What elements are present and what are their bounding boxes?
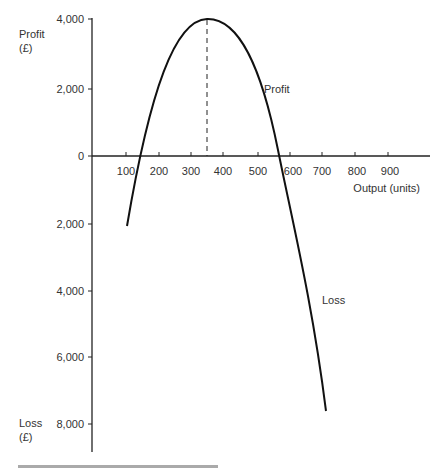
svg-text:8,000: 8,000 [56,418,84,430]
svg-text:2,000: 2,000 [56,83,84,95]
svg-text:700: 700 [313,165,331,177]
svg-text:2,000: 2,000 [56,218,84,230]
y-axis-label-profit: Profit [19,28,45,40]
y-axis-label-loss: Loss [19,417,43,429]
profit-loss-chart: 4,000 2,000 0 2,000 4,000 6,000 8,000 10… [0,0,447,468]
y-axis-label-loss-unit: (£) [19,431,32,443]
y-tick-labels: 4,000 2,000 0 2,000 4,000 6,000 8,000 [56,13,84,430]
x-axis-label: Output (units) [353,182,420,194]
y-axis-label-profit-unit: (£) [19,42,32,54]
svg-text:300: 300 [182,165,200,177]
x-tick-labels: 100 200 300 400 500 600 700 800 900 [117,165,399,177]
svg-text:600: 600 [284,165,302,177]
svg-text:6,000: 6,000 [56,351,84,363]
svg-text:500: 500 [249,165,267,177]
profit-curve-label: Profit [264,83,290,95]
svg-text:800: 800 [348,165,366,177]
svg-text:100: 100 [117,165,135,177]
profit-curve [127,19,326,411]
loss-curve-label: Loss [322,294,346,306]
svg-text:0: 0 [78,150,84,162]
svg-text:900: 900 [381,165,399,177]
svg-text:200: 200 [150,165,168,177]
svg-text:400: 400 [214,165,232,177]
svg-text:4,000: 4,000 [56,13,84,25]
svg-text:4,000: 4,000 [56,285,84,297]
